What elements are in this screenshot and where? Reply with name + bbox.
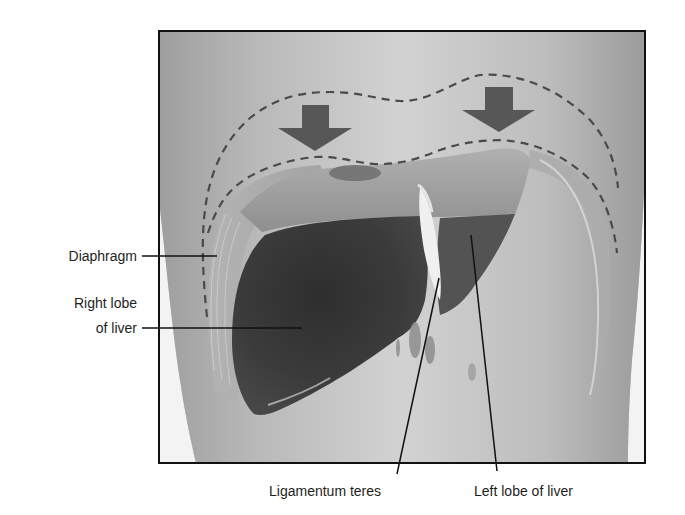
label-ligamentum-teres: Ligamentum teres bbox=[269, 483, 381, 499]
label-right-lobe-line1: Right lobe bbox=[74, 295, 137, 311]
label-left-lobe: Left lobe of liver bbox=[474, 483, 573, 499]
gallbladder bbox=[329, 165, 381, 181]
label-right-lobe-line2: of liver bbox=[96, 320, 137, 336]
label-diaphragm: Diaphragm bbox=[69, 248, 137, 264]
